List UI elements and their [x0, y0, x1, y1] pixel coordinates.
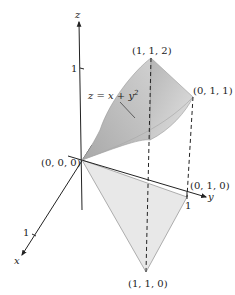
- x-axis-label: x: [14, 255, 20, 266]
- equation-main: z = x + y: [87, 90, 134, 101]
- equation-exponent: 2: [133, 89, 139, 97]
- surface-patch: [82, 58, 151, 160]
- point-label-010: (0, 1, 0): [190, 180, 230, 191]
- base-triangle-region: [82, 160, 187, 272]
- surface-equation: z = x + y2: [87, 89, 139, 101]
- z-tick-label: 1: [71, 63, 77, 74]
- 3d-surface-figure: z x y 1 1 1 z = x + y2 (0, 0, 0) (1, 1, …: [0, 0, 235, 295]
- y-axis-label: y: [207, 191, 214, 202]
- point-label-110: (1, 1, 0): [128, 278, 168, 289]
- z-axis: [79, 22, 82, 210]
- point-label-011: (0, 1, 1): [193, 85, 233, 96]
- point-label-112: (1, 1, 2): [132, 45, 172, 56]
- point-label-origin: (0, 0, 0): [41, 157, 81, 168]
- z-tick: [80, 68, 84, 69]
- x-tick-label: 1: [23, 227, 29, 238]
- z-axis-label: z: [74, 9, 81, 20]
- y-tick-label: 1: [185, 200, 191, 211]
- surface-patch-right: [150, 58, 193, 140]
